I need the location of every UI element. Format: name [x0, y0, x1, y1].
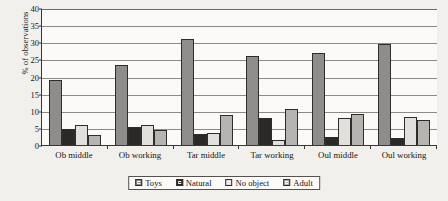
legend-item[interactable]: Adult — [283, 179, 313, 188]
x-axis-tick-label: Tar middle — [173, 150, 239, 160]
x-axis-tick-label: Ob working — [107, 150, 173, 160]
bar — [128, 127, 141, 145]
legend-label: Toys — [145, 179, 162, 188]
y-axis-tick-label: 20 — [31, 73, 40, 82]
bar-group — [239, 9, 305, 145]
bar — [62, 129, 75, 145]
bar — [325, 137, 338, 145]
y-axis-tick-label: 40 — [31, 5, 40, 14]
plot-area: 0510152025303540 — [41, 9, 437, 146]
legend-item[interactable]: No object — [226, 179, 270, 188]
bar — [417, 120, 430, 145]
bar — [75, 125, 88, 145]
bar — [272, 140, 285, 145]
bar — [404, 117, 417, 145]
y-axis-tick-label: 35 — [31, 22, 40, 31]
y-axis-title: % of observations — [20, 0, 30, 98]
bar — [49, 80, 62, 145]
bar — [285, 109, 298, 145]
bar — [338, 118, 351, 145]
bar — [259, 118, 272, 145]
legend-swatch-icon — [135, 179, 142, 186]
bar-group — [371, 9, 437, 145]
x-axis-tick-mark — [238, 145, 239, 149]
x-axis-tick-mark — [107, 145, 108, 149]
bar — [154, 130, 167, 145]
bar-group — [42, 9, 108, 145]
bar-group — [174, 9, 240, 145]
x-axis-tick-label: Oul working — [371, 150, 437, 160]
chart-legend: ToysNaturalNo objectAdult — [128, 176, 320, 190]
x-axis-tick-label: Tar working — [239, 150, 305, 160]
bar — [391, 138, 404, 145]
x-axis-tick-mark — [436, 145, 437, 149]
bar-group — [108, 9, 174, 145]
legend-swatch-icon — [283, 179, 290, 186]
legend-item[interactable]: Toys — [135, 179, 162, 188]
bar — [378, 44, 391, 145]
legend-label: Adult — [293, 179, 313, 188]
y-axis-tick-label: 25 — [31, 56, 40, 65]
bar — [220, 115, 233, 145]
x-axis-tick-mark — [304, 145, 305, 149]
y-axis-tick-label: 10 — [31, 108, 40, 117]
bar — [181, 39, 194, 145]
legend-label: No object — [236, 179, 270, 188]
x-axis-tick-label: Oul middle — [305, 150, 371, 160]
bar-group — [305, 9, 371, 145]
x-axis-tick-mark — [173, 145, 174, 149]
y-axis-tick-label: 15 — [31, 90, 40, 99]
x-axis-tick-mark — [370, 145, 371, 149]
bar — [115, 65, 128, 145]
bar — [194, 134, 207, 145]
bar — [141, 125, 154, 145]
bar — [207, 133, 220, 145]
y-axis-tick-label: 5 — [35, 125, 39, 134]
y-axis-tick-label: 30 — [31, 39, 40, 48]
x-axis-labels: Ob middleOb workingTar middleTar working… — [41, 150, 437, 160]
bar — [351, 114, 364, 145]
legend-item[interactable]: Natural — [176, 179, 212, 188]
y-axis-tick-mark — [39, 146, 43, 147]
bar — [246, 56, 259, 145]
x-axis-tick-label: Ob middle — [41, 150, 107, 160]
bar-groups — [42, 9, 437, 145]
legend-swatch-icon — [226, 179, 233, 186]
bar — [312, 53, 325, 145]
legend-swatch-icon — [176, 179, 183, 186]
bar-chart: % of observations 0510152025303540 Ob mi… — [0, 0, 448, 201]
y-axis-tick-label: 0 — [35, 142, 39, 151]
legend-label: Natural — [186, 179, 212, 188]
bar — [88, 135, 101, 145]
